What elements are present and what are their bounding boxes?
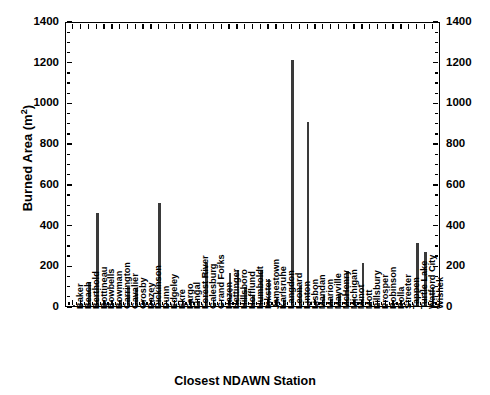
y-tick-label-right: 1200: [446, 57, 472, 69]
y-tick: [433, 62, 438, 63]
x-tick-top: [322, 24, 323, 29]
x-tick: [72, 300, 73, 305]
x-tick-top: [236, 24, 237, 29]
y-tick-label-left: 1400: [0, 16, 59, 28]
x-tick-top: [314, 24, 315, 29]
y-tick: [435, 32, 438, 33]
y-tick-label-left: 400: [0, 220, 59, 232]
y-tick-label-right: 0: [446, 301, 452, 313]
y-tick-label-right: 200: [446, 260, 465, 272]
x-tick-top: [392, 24, 393, 29]
y-tick: [67, 215, 70, 216]
y-axis-title-superscript: 2: [19, 109, 29, 114]
x-tick-top: [142, 24, 143, 29]
x-tick-top: [221, 24, 222, 29]
y-tick: [67, 205, 70, 206]
x-tick-top: [213, 24, 214, 29]
x-tick-top: [353, 24, 354, 29]
y-tick: [67, 296, 70, 297]
y-tick: [67, 93, 70, 94]
x-tick-top: [197, 24, 198, 29]
x-tick-top: [385, 24, 386, 29]
y-tick-label-left: 1200: [0, 57, 59, 69]
y-tick: [433, 225, 438, 226]
x-tick-label: Wishek: [436, 277, 445, 309]
x-tick-top: [408, 24, 409, 29]
y-tick: [435, 154, 438, 155]
x-tick-top: [182, 24, 183, 29]
x-tick-top: [260, 24, 261, 29]
y-tick: [67, 32, 70, 33]
x-tick-top: [377, 24, 378, 29]
x-tick-top: [291, 24, 292, 29]
y-tick: [435, 194, 438, 195]
x-tick-top: [228, 24, 229, 29]
y-tick-label-right: 1400: [446, 16, 472, 28]
y-tick-label-right: 400: [446, 220, 465, 232]
y-tick: [435, 235, 438, 236]
x-tick-top: [400, 24, 401, 29]
y-tick: [435, 205, 438, 206]
x-tick-top: [361, 24, 362, 29]
x-tick-top: [369, 24, 370, 29]
x-tick-top: [416, 24, 417, 29]
y-tick: [67, 72, 70, 73]
y-tick: [433, 21, 438, 22]
y-tick: [67, 255, 70, 256]
x-tick-top: [205, 24, 206, 29]
x-tick-top: [119, 24, 120, 29]
y-tick: [67, 286, 70, 287]
y-tick: [67, 52, 70, 53]
y-tick: [67, 235, 70, 236]
x-tick-top: [307, 24, 308, 29]
x-tick-top: [252, 24, 253, 29]
y-tick: [67, 164, 70, 165]
y-tick: [433, 103, 438, 104]
y-tick: [435, 113, 438, 114]
x-tick-top: [283, 24, 284, 29]
y-tick-label-left: 600: [0, 179, 59, 191]
y-tick: [435, 133, 438, 134]
x-tick-top: [158, 24, 159, 29]
y-tick-label-left: 800: [0, 138, 59, 150]
x-tick-top: [299, 24, 300, 29]
y-tick: [435, 82, 438, 83]
y-tick: [435, 123, 438, 124]
x-tick-top: [244, 24, 245, 29]
y-tick: [67, 276, 70, 277]
y-tick-label-left: 1000: [0, 97, 59, 109]
y-tick: [67, 123, 70, 124]
y-tick: [67, 62, 72, 63]
x-tick-top: [166, 24, 167, 29]
x-tick-top: [189, 24, 190, 29]
x-tick-top: [127, 24, 128, 29]
y-tick: [435, 174, 438, 175]
x-tick-top: [267, 24, 268, 29]
y-tick: [67, 194, 70, 195]
y-tick: [435, 245, 438, 246]
y-tick: [435, 52, 438, 53]
x-tick-top: [103, 24, 104, 29]
x-tick-top: [96, 24, 97, 29]
y-axis-title-base: Burned Area (m: [20, 114, 35, 211]
x-tick-top: [135, 24, 136, 29]
x-tick-top: [338, 24, 339, 29]
x-tick-top: [424, 24, 425, 29]
y-tick: [67, 245, 70, 246]
x-tick-top: [275, 24, 276, 29]
y-tick: [435, 72, 438, 73]
y-tick: [67, 266, 72, 267]
y-tick-label-right: 800: [446, 138, 465, 150]
x-tick-top: [80, 24, 81, 29]
y-tick: [67, 174, 70, 175]
x-tick-top: [346, 24, 347, 29]
y-tick: [67, 225, 72, 226]
x-tick-minor: [68, 302, 69, 305]
y-tick: [67, 82, 70, 83]
x-tick-top: [432, 24, 433, 29]
y-tick: [67, 306, 72, 307]
x-axis-tick-labels: BakerBeachBertholdBottineauBowbellsBowma…: [65, 309, 440, 375]
x-tick-top: [150, 24, 151, 29]
x-tick-top: [174, 24, 175, 29]
y-tick: [67, 21, 72, 22]
